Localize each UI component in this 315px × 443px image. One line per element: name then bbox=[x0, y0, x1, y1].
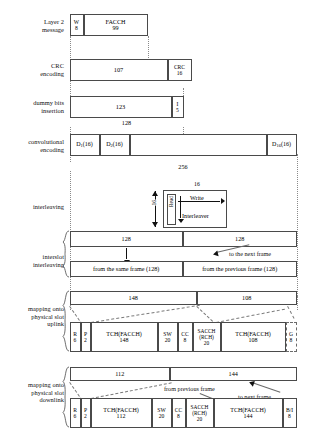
layer2-facch-cell: FACCH 99 bbox=[84, 14, 148, 36]
conv-d16-cell: D16(16) bbox=[267, 134, 297, 156]
interleaver-read-label: Read bbox=[168, 196, 174, 207]
dummy-i-cell: I 5 bbox=[172, 96, 184, 118]
interleaver-write-arrow bbox=[178, 201, 220, 202]
downlink-cell-cc-value: 8 bbox=[177, 413, 180, 419]
downlink-header-left: 112 bbox=[70, 367, 171, 381]
dimension-256: 256 bbox=[70, 164, 297, 171]
downlink-cell-cc: CC 8 bbox=[172, 398, 186, 428]
downlink-cell-tch144: TCH(FACCH) 144 bbox=[214, 398, 283, 428]
uplink-cell-cc: CC 8 bbox=[178, 322, 193, 352]
guide-right-256 bbox=[297, 154, 298, 296]
downlink-next-frame-line bbox=[252, 382, 281, 393]
conv-d1-cell: D1(16) bbox=[70, 134, 100, 156]
interleaver-height-dim: 16 bbox=[152, 191, 159, 227]
interslot-bottom-right: from the previous frame (128) bbox=[183, 261, 297, 277]
uplink-cell-sacch-value: 20 bbox=[204, 340, 209, 346]
downlink-cell-bi-value: 8 bbox=[288, 413, 291, 419]
dummy-i-value: 5 bbox=[176, 107, 179, 113]
stage-label-interslot: interslotinterleaving bbox=[2, 253, 64, 268]
conv-middle-cell bbox=[130, 134, 267, 156]
uplink-cell-tch148-value: 148 bbox=[120, 337, 129, 343]
stage-label-downlink: mapping ontophysical slotdownlink bbox=[2, 381, 64, 404]
crc-parity-cell: CRC 16 bbox=[168, 59, 192, 81]
interslot-brace bbox=[61, 230, 70, 278]
uplink-cell-cc-value: 8 bbox=[184, 337, 187, 343]
uplink-guide-3 bbox=[196, 306, 213, 322]
stage-label-interleaving: interleaving bbox=[2, 203, 64, 211]
interslot-same-frame-arrow bbox=[126, 248, 127, 259]
dummy-data-value: 123 bbox=[116, 103, 126, 110]
downlink-cell-sacch-value: 20 bbox=[197, 416, 202, 422]
downlink-cell-tch112-value: 112 bbox=[117, 413, 126, 419]
crc-data-value: 107 bbox=[114, 66, 124, 73]
uplink-guide-2 bbox=[91, 305, 200, 323]
interslot-top-left: 128 bbox=[70, 231, 184, 247]
uplink-cell-r: R 6 bbox=[70, 322, 81, 352]
downlink-cell-sw: SW 20 bbox=[152, 398, 172, 428]
downlink-prev-frame-label: from previous frame bbox=[164, 385, 215, 392]
interleaver-width-dim: 16 bbox=[167, 181, 227, 188]
conv-d16-text: D16(16) bbox=[272, 141, 291, 148]
uplink-cell-p-value: 2 bbox=[84, 337, 87, 343]
dummy-data-cell: 123 bbox=[70, 96, 172, 118]
interslot-bottom-left-value: from the same frame (128) bbox=[93, 265, 159, 272]
uplink-cell-r-value: 6 bbox=[74, 337, 77, 343]
stage-label-uplink: mapping ontophysical slotuplink bbox=[2, 305, 64, 328]
downlink-cell-p-value: 2 bbox=[84, 413, 87, 419]
diagram-canvas: Layer 2message CRCencoding dummy bitsins… bbox=[0, 0, 315, 443]
crc-parity-value: 16 bbox=[177, 70, 183, 76]
interleaver-name-label: Interleaver bbox=[182, 212, 209, 219]
downlink-header-left-value: 112 bbox=[115, 370, 124, 377]
uplink-cell-g-value: 8 bbox=[290, 337, 293, 343]
interslot-top-left-value: 128 bbox=[122, 235, 131, 242]
uplink-guide-5 bbox=[287, 306, 294, 319]
uplink-cell-sw-value: 20 bbox=[165, 337, 171, 343]
uplink-header-left-value: 148 bbox=[129, 294, 138, 301]
layer2-w-value: 8 bbox=[75, 25, 78, 31]
conv-d2-cell: D2(16) bbox=[100, 134, 130, 156]
interleaver-height-value: 16 bbox=[151, 200, 157, 206]
interslot-bottom-left: from the same frame (128) bbox=[70, 261, 184, 277]
uplink-cell-g: G 8 bbox=[286, 322, 297, 352]
layer2-w-cell: W 8 bbox=[70, 14, 84, 36]
downlink-cell-p: P 2 bbox=[81, 398, 91, 428]
uplink-header-left: 148 bbox=[70, 291, 198, 305]
downlink-cell-sacch: SACCH (RCH) 20 bbox=[186, 398, 214, 428]
uplink-cell-sacch: SACCH (RCH) 20 bbox=[193, 322, 221, 352]
downlink-cell-r-value: 6 bbox=[74, 413, 77, 419]
stage-label-layer2: Layer 2message bbox=[2, 18, 64, 33]
uplink-guide-4 bbox=[216, 309, 285, 323]
conv-d1-text: D1(16) bbox=[76, 141, 93, 148]
downlink-cell-sw-value: 20 bbox=[159, 413, 165, 419]
stage-label-dummy: dummy bitsinsertion bbox=[2, 99, 64, 114]
stage-label-convolutional: convolutionalencoding bbox=[2, 138, 64, 153]
layer2-facch-value: 99 bbox=[112, 25, 118, 31]
uplink-cell-sw: SW 20 bbox=[158, 322, 178, 352]
interslot-top-right-value: 128 bbox=[235, 235, 244, 242]
uplink-cell-tch108-value: 108 bbox=[249, 337, 258, 343]
uplink-cell-tch148: TCH(FACCH) 148 bbox=[91, 322, 158, 352]
uplink-cell-tch108: TCH(FACCH) 108 bbox=[221, 322, 286, 352]
guide-interslot-right bbox=[297, 296, 298, 310]
downlink-cell-bi: B/I 8 bbox=[283, 398, 297, 428]
uplink-header-right: 108 bbox=[197, 291, 297, 305]
downlink-guide-2 bbox=[91, 382, 172, 399]
interleaver-width-value: 16 bbox=[193, 181, 202, 187]
interslot-bottom-right-value: from the previous frame (128) bbox=[202, 265, 277, 272]
downlink-cell-r: R 6 bbox=[70, 398, 81, 428]
downlink-cell-tch112: TCH(FACCH) 112 bbox=[91, 398, 152, 428]
interslot-next-frame-label: to the next frame bbox=[229, 250, 271, 257]
dimension-256-value: 256 bbox=[177, 163, 189, 170]
dimension-128: 128 bbox=[70, 120, 184, 127]
dimension-128-value: 128 bbox=[120, 119, 132, 126]
crc-data-cell: 107 bbox=[70, 59, 168, 81]
downlink-cell-tch144-value: 144 bbox=[244, 413, 253, 419]
stage-label-crc: CRCencoding bbox=[2, 62, 64, 77]
downlink-header-right: 144 bbox=[170, 367, 297, 381]
uplink-cell-p: P 2 bbox=[81, 322, 91, 352]
downlink-next-frame-arrowhead bbox=[248, 379, 255, 386]
downlink-header-right-value: 144 bbox=[229, 370, 238, 377]
conv-d2-text: D2(16) bbox=[106, 141, 123, 148]
interslot-top-right: 128 bbox=[183, 231, 297, 247]
interleaver-read-arrow bbox=[180, 196, 181, 218]
